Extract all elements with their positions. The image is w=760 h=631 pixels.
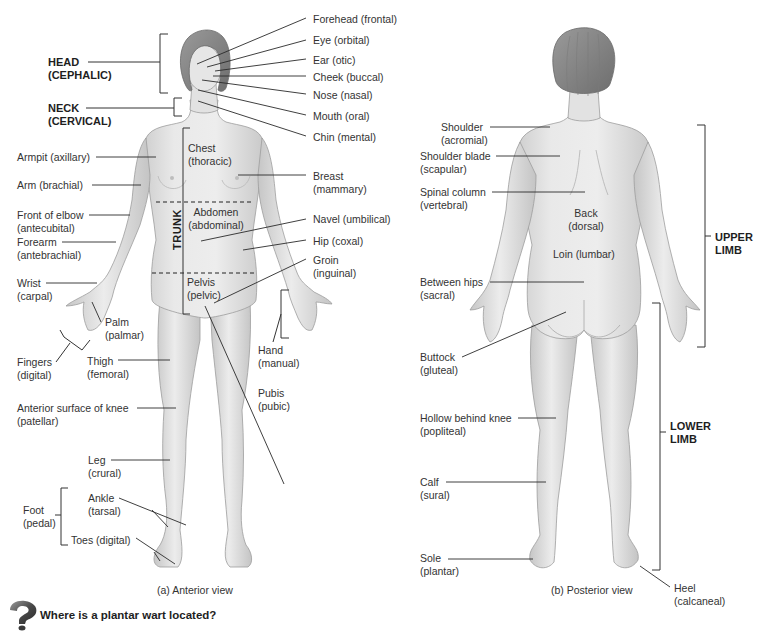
label-buttock: Buttock (gluteal) — [420, 351, 458, 376]
label-hip-text: Hip (coxal) — [313, 235, 363, 248]
label-between-hips-name: Between hips — [420, 276, 483, 289]
label-wrist-term: (carpal) — [17, 290, 53, 303]
label-ankle-term: (tarsal) — [88, 505, 121, 518]
region-head-name: HEAD — [48, 56, 112, 69]
label-breast-name: Breast — [313, 170, 367, 183]
label-hand: Hand (manual) — [258, 344, 299, 369]
label-chest-term: (thoracic) — [188, 155, 232, 168]
label-between-hips: Between hips (sacral) — [420, 276, 483, 301]
label-knee-term: (patellar) — [17, 415, 128, 428]
label-sole: Sole (plantar) — [420, 552, 459, 577]
label-forehead-text: Forehead (frontal) — [313, 13, 397, 26]
label-spinal-column-name: Spinal column — [420, 186, 486, 199]
label-armpit-text: Armpit (axillary) — [17, 151, 90, 164]
posterior-right-arm — [634, 142, 700, 342]
label-knee-name: Anterior surface of knee — [17, 402, 128, 415]
label-nose-text: Nose (nasal) — [313, 89, 373, 102]
region-head-term: (CEPHALIC) — [48, 69, 112, 82]
label-arm-text: Arm (brachial) — [17, 179, 83, 192]
label-calf: Calf (sural) — [420, 476, 450, 501]
label-fingers: Fingers (digital) — [17, 356, 52, 381]
region-lower-limb-line1: LOWER — [670, 420, 711, 433]
label-mouth-text: Mouth (oral) — [313, 110, 370, 123]
label-front-of-elbow-name: Front of elbow — [17, 209, 84, 222]
label-pubis: Pubis (pubic) — [258, 387, 290, 412]
label-pubis-name: Pubis — [258, 387, 290, 400]
label-palm-term: (palmar) — [105, 329, 144, 342]
label-breast: Breast (mammary) — [313, 170, 367, 195]
label-armpit: Armpit (axillary) — [17, 151, 90, 164]
label-wrist-name: Wrist — [17, 277, 53, 290]
label-wrist: Wrist (carpal) — [17, 277, 53, 302]
label-shoulder-blade: Shoulder blade (scapular) — [420, 150, 491, 175]
label-abdomen: Abdomen (abdominal) — [186, 206, 246, 231]
label-shoulder-blade-term: (scapular) — [420, 163, 491, 176]
label-buttock-term: (gluteal) — [420, 364, 458, 377]
label-breast-term: (mammary) — [313, 183, 367, 196]
label-fingers-name: Fingers — [17, 356, 52, 369]
label-ankle-name: Ankle — [88, 492, 121, 505]
region-neck-term: (CERVICAL) — [48, 115, 111, 128]
label-hollow-behind-knee-term: (popliteal) — [420, 425, 512, 438]
label-foot: Foot (pedal) — [23, 504, 56, 529]
label-forearm: Forearm (antebrachial) — [17, 236, 81, 261]
label-leg-name: Leg — [88, 454, 121, 467]
label-forearm-name: Forearm — [17, 236, 81, 249]
anterior-view-caption: (a) Anterior view — [157, 584, 233, 596]
label-spinal-column: Spinal column (vertebral) — [420, 186, 486, 211]
label-toes: Toes (digital) — [71, 534, 131, 547]
label-palm: Palm (palmar) — [105, 316, 144, 341]
label-groin: Groin (inguinal) — [313, 254, 356, 279]
label-front-of-elbow-term: (antecubital) — [17, 222, 84, 235]
label-palm-name: Palm — [105, 316, 144, 329]
review-question: Where is a plantar wart located? — [40, 609, 216, 621]
label-hollow-behind-knee: Hollow behind knee (popliteal) — [420, 412, 512, 437]
label-heel-term: (calcaneal) — [674, 595, 725, 608]
label-hollow-behind-knee-name: Hollow behind knee — [420, 412, 512, 425]
label-calf-term: (sural) — [420, 489, 450, 502]
label-back: Back (dorsal) — [565, 207, 607, 232]
label-cheek-text: Cheek (buccal) — [313, 71, 384, 84]
posterior-right-leg — [590, 325, 638, 568]
label-hand-name: Hand — [258, 344, 299, 357]
posterior-left-leg — [530, 325, 578, 568]
label-shoulder: Shoulder (acromial) — [441, 121, 488, 146]
label-foot-name: Foot — [23, 504, 56, 517]
label-buttock-name: Buttock — [420, 351, 458, 364]
label-calf-name: Calf — [420, 476, 450, 489]
label-back-term: (dorsal) — [565, 220, 607, 233]
label-heel: Heel (calcaneal) — [674, 582, 725, 607]
label-spinal-column-term: (vertebral) — [420, 199, 486, 212]
label-front-of-elbow: Front of elbow (antecubital) — [17, 209, 84, 234]
label-chest-name: Chest — [188, 142, 232, 155]
region-head: HEAD (CEPHALIC) — [48, 56, 112, 82]
label-ear: Ear (otic) — [313, 54, 356, 67]
label-abdomen-term: (abdominal) — [186, 219, 246, 232]
label-groin-term: (inguinal) — [313, 267, 356, 280]
label-pelvis: Pelvis (pelvic) — [187, 276, 221, 301]
label-between-hips-term: (sacral) — [420, 289, 483, 302]
anterior-left-leg — [154, 300, 200, 567]
label-forehead: Forehead (frontal) — [313, 13, 397, 26]
anterior-right-leg — [210, 300, 252, 567]
region-neck: NECK (CERVICAL) — [48, 102, 111, 128]
label-shoulder-term: (acromial) — [441, 134, 488, 147]
label-eye: Eye (orbital) — [313, 34, 370, 47]
label-navel: Navel (umbilical) — [313, 213, 391, 226]
region-lower-limb-line2: LIMB — [670, 433, 711, 446]
label-thigh: Thigh (femoral) — [87, 355, 129, 380]
label-chest: Chest (thoracic) — [188, 142, 232, 167]
region-lower-limb: LOWER LIMB — [670, 420, 711, 446]
region-trunk: TRUNK — [171, 209, 183, 250]
label-loin: Loin (lumbar) — [553, 248, 615, 261]
label-cheek: Cheek (buccal) — [313, 71, 384, 84]
label-hip: Hip (coxal) — [313, 235, 363, 248]
label-thigh-term: (femoral) — [87, 368, 129, 381]
label-pelvis-name: Pelvis — [187, 276, 221, 289]
label-leg: Leg (crural) — [88, 454, 121, 479]
label-arm: Arm (brachial) — [17, 179, 83, 192]
label-shoulder-name: Shoulder — [441, 121, 488, 134]
anterior-left-arm — [66, 138, 150, 330]
label-knee: Anterior surface of knee (patellar) — [17, 402, 128, 427]
label-ankle: Ankle (tarsal) — [88, 492, 121, 517]
